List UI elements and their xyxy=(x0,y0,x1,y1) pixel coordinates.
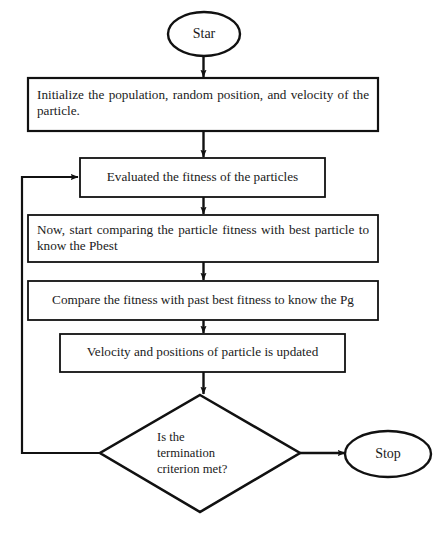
node-compare-pbest-label: Now, start comparing the particle fitnes… xyxy=(37,222,369,254)
node-start-label: Star xyxy=(168,25,240,42)
node-compare-pg-label: Compare the fitness with past best fitne… xyxy=(36,292,370,308)
flowchart-canvas: Star Initialize the population, random p… xyxy=(0,0,443,535)
node-decision-label: Is the termination criterion met? xyxy=(157,430,267,478)
node-initialize-label: Initialize the population, random positi… xyxy=(37,87,369,119)
node-update-label: Velocity and positions of particle is up… xyxy=(68,344,337,360)
node-evaluate-label: Evaluated the fitness of the particles xyxy=(86,169,319,185)
node-stop-label: Stop xyxy=(346,445,430,462)
